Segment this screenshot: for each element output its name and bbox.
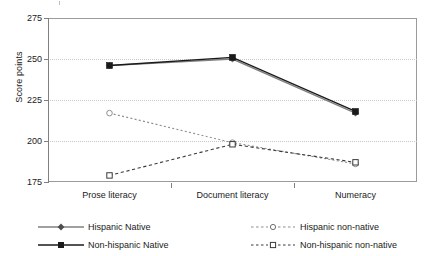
- y-tick: [44, 182, 49, 183]
- y-tick-label: 225: [10, 95, 42, 105]
- y-axis-title: Score points: [14, 32, 24, 122]
- x-tick-label: Prose literacy: [50, 190, 170, 200]
- chart-figure: Score points 275250225200175 Prose liter…: [0, 0, 434, 256]
- x-tick-label: Numeracy: [296, 190, 416, 200]
- legend-item-hispanic-native[interactable]: Hispanic Native: [38, 220, 151, 234]
- legend-label: Hispanic non-native: [300, 221, 379, 233]
- y-tick: [44, 141, 49, 142]
- gridline: [48, 141, 417, 142]
- gridline: [48, 59, 417, 60]
- legend-item-non-hispanic-native[interactable]: Non-hispanic Native: [38, 238, 169, 252]
- legend-symbol-square-solid: [38, 239, 84, 251]
- legend-label: Hispanic Native: [88, 221, 151, 233]
- legend-item-non-hispanic-non-native[interactable]: Non-hispanic non-native: [250, 238, 397, 252]
- y-tick: [44, 100, 49, 101]
- x-tick-label: Document literacy: [173, 190, 293, 200]
- y-tick-label: 275: [10, 13, 42, 23]
- gridline: [48, 100, 417, 101]
- y-tick: [44, 18, 49, 19]
- legend-label: Non-hispanic non-native: [300, 239, 397, 251]
- x-tick: [294, 183, 295, 188]
- y-tick-label: 250: [10, 54, 42, 64]
- y-tick-label: 175: [10, 177, 42, 187]
- legend-symbol-circle-open: [250, 221, 296, 233]
- legend-item-hispanic-non-native[interactable]: Hispanic non-native: [250, 220, 379, 234]
- chart-legend: Hispanic Native Non-hispanic Native Hisp…: [0, 216, 434, 256]
- x-tick: [171, 183, 172, 188]
- y-tick: [44, 59, 49, 60]
- y-tick-label: 200: [10, 136, 42, 146]
- legend-symbol-square-open: [250, 239, 296, 251]
- legend-symbol-diamond-solid: [38, 221, 84, 233]
- legend-label: Non-hispanic Native: [88, 239, 169, 251]
- top-artifact: [59, 1, 60, 5]
